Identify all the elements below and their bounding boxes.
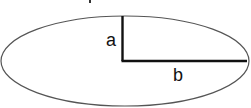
label-b: b	[173, 65, 183, 85]
ellipse-diagram: a b	[0, 0, 251, 108]
label-a: a	[106, 30, 117, 50]
cropped-text-fragment	[89, 0, 91, 3]
